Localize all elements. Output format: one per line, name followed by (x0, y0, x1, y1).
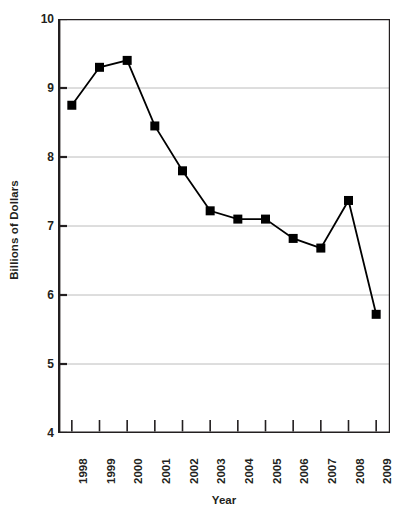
x-axis-tick-label-text: 2005 (271, 458, 283, 484)
y-axis-tick-label: 10 (32, 13, 54, 25)
x-axis-tick-label-text: 2007 (326, 458, 338, 484)
data-point-marker (206, 206, 215, 215)
data-point-marker (344, 196, 353, 205)
x-axis-title: Year (58, 494, 390, 506)
x-axis-tick-label-text: 2008 (354, 458, 366, 484)
data-point-marker (372, 310, 381, 319)
x-axis-tick-label-text: 1999 (105, 458, 117, 484)
x-axis-ticks (72, 420, 376, 431)
data-point-marker (261, 215, 270, 224)
y-axis-tick-label: 7 (32, 220, 54, 232)
gridlines (58, 88, 390, 364)
y-axis-tick-label: 4 (32, 427, 54, 439)
x-axis-tick-label-text: 2009 (381, 458, 393, 484)
data-point-marker (316, 244, 325, 253)
page-caption-sliver (6, 515, 266, 524)
y-axis-tick-label: 8 (32, 151, 54, 163)
y-axis-tick-label: 6 (32, 289, 54, 301)
x-axis-tick-label-text: 2000 (132, 458, 144, 484)
y-axis-title: Billions of Dollars (0, 0, 28, 460)
line-chart: Billions of Dollars 45678910 19981999200… (0, 0, 407, 524)
data-point-marker (233, 215, 242, 224)
data-point-marker (289, 234, 298, 243)
data-point-marker (178, 166, 187, 175)
x-axis-tick-labels: 1998199920002001200220032004200520062007… (58, 437, 390, 489)
data-series-line (72, 60, 376, 314)
data-point-marker (123, 56, 132, 65)
y-axis-tick-labels: 45678910 (26, 19, 54, 433)
y-axis-tick-label: 5 (32, 358, 54, 370)
x-axis-tick-label-text: 2003 (215, 458, 227, 484)
data-series-markers (67, 56, 380, 319)
plot-area (58, 19, 390, 433)
plot-svg (58, 19, 390, 433)
x-axis-tick-label-text: 2006 (298, 458, 310, 484)
data-point-marker (150, 121, 159, 130)
x-axis-tick-label-text: 2001 (160, 458, 172, 484)
x-axis-tick-label-text: 2004 (243, 458, 255, 484)
y-axis-tick-label: 9 (32, 82, 54, 94)
y-axis-title-text: Billions of Dollars (8, 180, 20, 280)
x-axis-tick-label-text: 1998 (77, 458, 89, 484)
x-axis-tick-label-text: 2002 (188, 458, 200, 484)
data-point-marker (67, 101, 76, 110)
data-point-marker (95, 63, 104, 72)
